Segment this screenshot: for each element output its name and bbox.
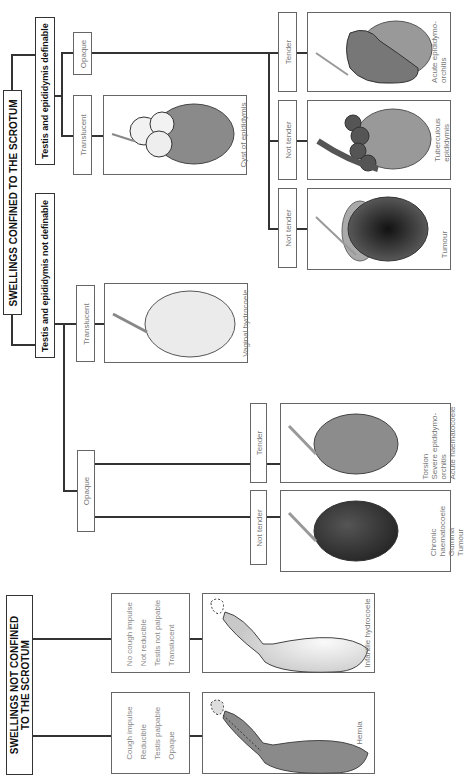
criterion: Translucent — [165, 600, 179, 666]
diagnosis-line: orchitis — [439, 21, 448, 83]
diagnosis-line: epididymis — [442, 118, 451, 162]
criterion: Testis not palpable — [151, 600, 165, 666]
criterion: No cough impulse — [123, 600, 137, 666]
criteria-box-hernia: Cough impulse Reducible Testis palpable … — [111, 692, 190, 774]
label-text: Opaque — [82, 477, 91, 505]
tumour-illustration: Tumour — [307, 188, 451, 270]
torsion-illustration: Torsion Severe epididymo- orchitis Acute… — [280, 403, 451, 483]
diagnosis-cyst-of-epididymis: Cyst of epididymis — [239, 103, 248, 168]
diagnosis-torsion: Torsion Severe epididymo- orchitis Acute… — [422, 407, 458, 480]
header-definable: Testis and epididymis definable — [35, 17, 55, 165]
infantile-hydrocoele-image — [203, 594, 376, 674]
label-text: Translucent — [78, 114, 87, 156]
cyst-of-epididymis-illustration: Cyst of epididymis — [103, 95, 247, 175]
diagnosis-tumour: Tumour — [440, 231, 449, 258]
criterion: Cough impulse — [123, 706, 137, 759]
label-translucent-not-definable: Translucent — [76, 285, 95, 362]
diagnosis-acute-epididymo-orchitis: Acute epididymo- orchitis — [430, 21, 448, 83]
diagnosis-infantile-hydrocoele: Infantile hydrocoele — [363, 598, 372, 667]
definable-text: Testis and epididymis definable — [40, 23, 51, 158]
label-tender-opaque: Tender — [250, 403, 267, 483]
diagnosis-line: Acute epididymo- — [430, 21, 439, 83]
tumour-image — [308, 189, 452, 271]
label-text: Tender — [283, 40, 292, 64]
criteria-box-infantile-hydrocoele: No cough impulse Not reducible Testis no… — [111, 593, 190, 673]
label-text: Opaque — [78, 39, 87, 67]
hernia-image — [203, 693, 376, 775]
criterion: Opaque — [165, 706, 179, 759]
diagnosis-line: Tuberculous — [433, 118, 442, 162]
diagnosis-line: Chronic — [429, 506, 438, 556]
diagnosis-line: orchitis — [440, 407, 449, 480]
diagnosis-line: Tumour — [456, 506, 465, 556]
infantile-hydrocoele-illustration: Infantile hydrocoele — [202, 593, 375, 673]
tuberculous-epididymis-image — [308, 101, 452, 181]
label-translucent-definable: Translucent — [73, 95, 92, 175]
diagnosis-chronic-haematocoele: Chronic haematocoele Gumma Tumour — [429, 506, 465, 556]
diagnosis-vaginal-hydrocoele: Vaginal hydrocoele — [241, 289, 250, 356]
label-text: Not tender — [283, 209, 292, 246]
header-not-definable: Testis and epididymis not definable — [35, 193, 55, 358]
diagnosis-line: Gumma — [447, 506, 456, 556]
label-not-tender-opaque: Not tender — [250, 490, 267, 565]
header-confined: SWELLINGS CONFINED TO THE SCROTUM — [3, 90, 22, 315]
label-text: Not tender — [283, 121, 292, 158]
not-definable-text: Testis and epididymis not definable — [40, 200, 51, 352]
diagnosis-tuberculous-epididymis: Tuberculous epididymis — [433, 118, 451, 162]
label-text: Not tender — [254, 509, 263, 546]
header-not-confined: SWELLINGS NOT CONFINED TO THE SCROTUM — [6, 595, 33, 775]
label-tender-acute: Tender — [278, 12, 297, 92]
diagnosis-line: Severe epididymo- — [431, 407, 440, 480]
label-opaque-not-definable: Opaque — [77, 450, 95, 532]
criterion: Testis palpable — [151, 706, 165, 759]
label-opaque-definable: Opaque — [73, 32, 92, 75]
label-text: Translucent — [81, 303, 90, 345]
header-not-confined-line1: SWELLINGS NOT CONFINED — [9, 616, 20, 754]
label-not-tender-tuberculous: Not tender — [278, 100, 297, 180]
header-confined-text: SWELLINGS CONFINED TO THE SCROTUM — [7, 99, 18, 306]
label-text: Tender — [254, 431, 263, 455]
vaginal-hydrocoele-illustration: Vaginal hydrocoele — [104, 283, 248, 363]
chronic-haematocoele-image — [281, 491, 452, 573]
label-not-tender-tumour: Not tender — [278, 188, 297, 268]
diagnosis-line: Torsion — [422, 407, 431, 480]
criterion: Not reducible — [137, 600, 151, 666]
header-not-confined-line2: TO THE SCROTUM — [20, 616, 31, 754]
hernia-illustration: Hernia — [202, 692, 375, 774]
cyst-of-epididymis-image — [104, 96, 248, 176]
acute-epididymo-orchitis-illustration: Acute epididymo- orchitis — [307, 12, 451, 92]
diagnosis-line: Acute haematocoele — [449, 407, 458, 480]
diagnosis-hernia: Hernia — [356, 721, 365, 745]
criterion: Reducible — [137, 706, 151, 759]
vaginal-hydrocoele-image — [105, 284, 249, 364]
chronic-haematocoele-illustration: Chronic haematocoele Gumma Tumour — [280, 490, 451, 572]
tuberculous-epididymis-illustration: Tuberculous epididymis — [307, 100, 451, 180]
diagnosis-line: haematocoele — [438, 506, 447, 556]
